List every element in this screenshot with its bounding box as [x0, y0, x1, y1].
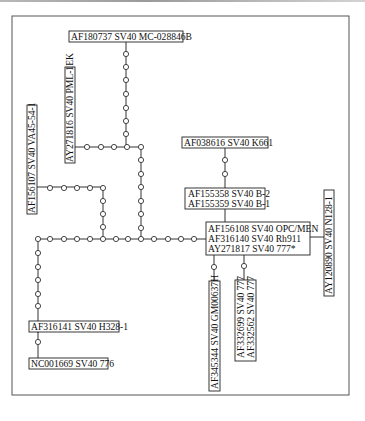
diagram-frame [12, 16, 349, 395]
svg-text:AF156107 SV40 VA45-54-1: AF156107 SV40 VA45-54-1 [26, 102, 37, 213]
svg-text:AF180737 SV40 MC-028846B: AF180737 SV40 MC-028846B [71, 31, 192, 42]
svg-text:AY120890 SV40 N128-1: AY120890 SV40 N128-1 [323, 196, 334, 294]
node-af156107: AF156107 SV40 VA45-54-1 [26, 102, 37, 214]
svg-text:AF345344 SV40 GM00637H: AF345344 SV40 GM00637H [209, 275, 220, 389]
node-ay271816: AY271816 SV40 PML-1EK [64, 53, 75, 163]
node-af155358-af155359: AF155358 SV40 B-2 AF155359 SV40 B-1 [185, 188, 270, 209]
node-af180737: AF180737 SV40 MC-028846B [69, 31, 192, 42]
network-diagram: AF180737 SV40 MC-028846B AY271816 SV40 P… [0, 0, 365, 421]
node-af156108-af316140-ay271817: AF156108 SV40 OPC/MEN AF316140 SV40 Rh91… [206, 222, 318, 255]
edges [37, 41, 324, 365]
svg-text:AF155359 SV40 B-1: AF155359 SV40 B-1 [188, 198, 270, 209]
svg-text:AY271816 SV40 PML-1EK: AY271816 SV40 PML-1EK [64, 53, 75, 162]
node-ay120890: AY120890 SV40 N128-1 [323, 190, 334, 296]
svg-text:AF316141 SV40 H328-1: AF316141 SV40 H328-1 [31, 321, 128, 332]
node-nc001669: NC001669 SV40 776 [29, 358, 114, 369]
node-af038616: AF038616 SV40 K661 [182, 137, 273, 148]
node-af345344: AF345344 SV40 GM00637H [209, 275, 220, 391]
svg-text:AF332562 SV40 777: AF332562 SV40 777 [245, 276, 256, 358]
node-af332699-af332562: AF332699 SV40 777 AF332562 SV40 777 [235, 276, 256, 361]
svg-text:NC001669 SV40 776: NC001669 SV40 776 [31, 358, 114, 369]
svg-text:AF038616 SV40 K661: AF038616 SV40 K661 [184, 137, 273, 148]
node-af316141: AF316141 SV40 H328-1 [29, 321, 128, 332]
svg-text:AY271817 SV40 777*: AY271817 SV40 777* [208, 243, 296, 254]
